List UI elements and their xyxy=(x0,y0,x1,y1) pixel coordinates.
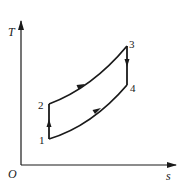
point-4-label: 4 xyxy=(130,82,136,94)
origin-label: O xyxy=(8,167,17,181)
direction-arrows xyxy=(47,59,130,127)
point-2-label: 2 xyxy=(38,99,44,111)
y-axis-label: T xyxy=(8,25,16,39)
axes: T s O xyxy=(8,21,176,183)
arrow-down-icon xyxy=(125,59,130,67)
point-3-label: 3 xyxy=(129,38,135,50)
arrow-up-icon xyxy=(47,119,52,127)
process-2-3 xyxy=(49,46,127,104)
t-s-diagram: T s O 1 2 3 4 xyxy=(0,0,189,188)
cycle xyxy=(49,46,127,139)
point-1-label: 1 xyxy=(39,134,45,146)
process-1-4 xyxy=(49,85,127,139)
x-axis-label: s xyxy=(166,169,171,183)
